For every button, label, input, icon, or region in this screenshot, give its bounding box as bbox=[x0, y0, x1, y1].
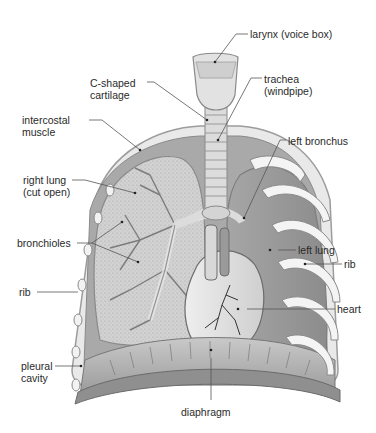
label-pleural-cavity: pleural cavity bbox=[21, 360, 53, 384]
respiratory-diagram: larynx (voice box) C-shaped cartilage tr… bbox=[0, 0, 376, 433]
label-c-shaped-cartilage: C-shaped cartilage bbox=[90, 77, 136, 101]
label-left-bronchus: left bronchus bbox=[288, 135, 348, 147]
label-rib-left-side: rib bbox=[344, 258, 356, 270]
label-rib-right-side: rib bbox=[19, 286, 31, 298]
label-bronchioles: bronchioles bbox=[17, 237, 71, 249]
label-heart: heart bbox=[337, 303, 361, 315]
label-larynx: larynx (voice box) bbox=[250, 28, 332, 40]
label-diaphragm: diaphragm bbox=[181, 406, 231, 418]
anatomy-illustration bbox=[0, 0, 376, 433]
label-trachea: trachea (windpipe) bbox=[264, 73, 312, 97]
label-left-lung: left lung bbox=[298, 244, 335, 256]
label-right-lung: right lung (cut open) bbox=[23, 174, 70, 198]
label-intercostal-muscle: intercostal muscle bbox=[22, 114, 70, 138]
